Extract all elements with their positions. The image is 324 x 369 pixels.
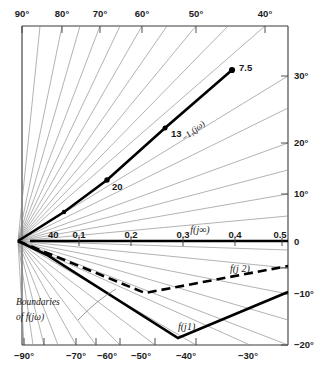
phase-label-80: 80° bbox=[55, 8, 70, 19]
phase-label-30: 30° bbox=[294, 70, 309, 81]
phase-label-minus-90: −90° bbox=[14, 350, 34, 361]
phase-label-40: 40° bbox=[258, 8, 273, 19]
marker-dot-7-5 bbox=[229, 67, 235, 73]
plot-canvas: 90° 80° 70° 60° 50° 40° 30° 20° 10° 0 −1… bbox=[0, 0, 324, 369]
phase-label-minus-70: −70° bbox=[66, 350, 86, 361]
phase-label-50: 50° bbox=[189, 8, 204, 19]
phase-label-70: 70° bbox=[93, 8, 108, 19]
phase-label-minus-40: −40° bbox=[176, 350, 196, 361]
marker-dot-13 bbox=[163, 126, 168, 131]
phase-label-90: 90° bbox=[15, 8, 30, 19]
real-tick-0-2: 0.2 bbox=[124, 229, 137, 240]
freq-marker-7-5: 7.5 bbox=[239, 62, 253, 73]
nyquist-phase-plot: 90° 80° 70° 60° 50° 40° 30° 20° 10° 0 −1… bbox=[0, 0, 324, 369]
boundary-caption-line-2: of f(jω) bbox=[16, 312, 44, 323]
real-tick-0-3: 0.3 bbox=[176, 229, 189, 240]
real-tick-0-4: 0.4 bbox=[228, 229, 242, 240]
real-tick-0-5: 0.5 bbox=[273, 229, 287, 240]
phase-label-0: 0 bbox=[294, 236, 299, 247]
real-tick-0-1: 0.1 bbox=[72, 229, 86, 240]
phase-label-minus-30: −30° bbox=[238, 350, 258, 361]
phase-label-10: 10° bbox=[294, 188, 309, 199]
phase-label-minus-20: −20° bbox=[294, 339, 314, 350]
phase-label-minus-50: −50° bbox=[131, 350, 151, 361]
curve-label-f-j2: f(j 2) bbox=[230, 263, 250, 275]
freq-marker-20: 20 bbox=[112, 181, 123, 192]
boundary-caption-line-1: Boundaries bbox=[16, 297, 60, 307]
phase-label-20: 20° bbox=[294, 137, 309, 148]
phase-label-minus-10: −10° bbox=[294, 288, 314, 299]
curve-label-f-jinf: f(j∞) bbox=[190, 224, 210, 236]
marker-dot-40 bbox=[62, 210, 66, 214]
phase-label-60: 60° bbox=[135, 8, 150, 19]
phase-label-minus-60: −60° bbox=[97, 350, 117, 361]
marker-dot-20 bbox=[104, 177, 109, 182]
freq-marker-40: 40 bbox=[48, 229, 59, 240]
plot-background bbox=[0, 0, 324, 369]
curve-label-f-j1: f(j1) bbox=[178, 321, 196, 333]
